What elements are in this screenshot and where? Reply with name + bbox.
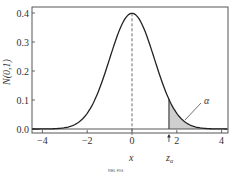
plot-frame [32, 7, 228, 133]
y-tick-label: 0.1 [17, 95, 30, 106]
arrow-head [167, 134, 171, 138]
frame-rect [32, 7, 228, 133]
y-tick-label: 0.3 [17, 37, 30, 48]
normal-distribution-chart: 0.00.10.20.30.4 −4−2024 α x zα N(0,1) RE… [0, 0, 233, 173]
y-tick-label: 0.2 [17, 66, 30, 77]
y-tick-label: 0.4 [17, 8, 30, 19]
x-mark-label: x [128, 152, 134, 163]
x-tick-label: −2 [82, 135, 93, 146]
x-tick-label: 2 [174, 135, 179, 146]
y-axis-label: N(0,1) [1, 58, 13, 86]
z-alpha-arrow-icon [167, 134, 171, 142]
z-subscript: α [170, 158, 174, 164]
alpha-leader-line [185, 103, 201, 120]
figure-tag: REL FIG [108, 168, 123, 173]
x-tick-label: 0 [130, 135, 135, 146]
pdf-curve [32, 13, 227, 129]
z-alpha-label: zα [165, 152, 174, 164]
x-tick-label: 4 [219, 135, 224, 146]
x-axis-ticks: −4−2024 [37, 130, 224, 146]
alpha-label: α [204, 95, 210, 106]
y-tick-label: 0.0 [17, 124, 30, 135]
x-tick-label: −4 [37, 135, 48, 146]
